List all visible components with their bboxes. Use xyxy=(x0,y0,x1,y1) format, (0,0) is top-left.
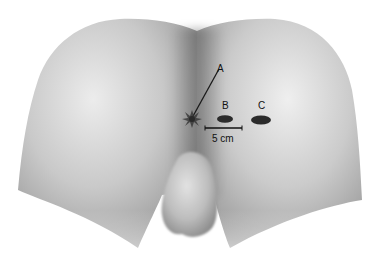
marker-a-label: A xyxy=(217,64,224,74)
marker-b-label: B xyxy=(222,101,229,111)
marker-c-ellipse xyxy=(251,116,271,125)
anatomical-illustration: A B C 5 cm xyxy=(0,0,377,268)
marker-b-ellipse xyxy=(217,115,233,123)
gluteal-region-drawing xyxy=(0,0,377,268)
marker-c-label: C xyxy=(258,101,265,111)
scale-bar-label: 5 cm xyxy=(212,134,234,144)
